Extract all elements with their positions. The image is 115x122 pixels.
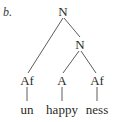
morphology-tree-diagram: b. N N Af A Af un happy ness <box>0 0 115 122</box>
leaf-un: un <box>21 103 34 116</box>
node-af-suffix: Af <box>90 74 104 87</box>
node-n: N <box>75 38 84 51</box>
leaf-happy: happy <box>46 103 78 116</box>
edge-root-af1 <box>28 18 63 73</box>
node-a: A <box>57 74 66 87</box>
edge-root-n2 <box>64 18 80 37</box>
edge-n2-af2 <box>81 51 96 73</box>
edge-n2-a <box>63 51 79 73</box>
node-af-prefix: Af <box>20 74 34 87</box>
node-root-n: N <box>58 5 67 18</box>
leaf-ness: ness <box>86 103 108 116</box>
